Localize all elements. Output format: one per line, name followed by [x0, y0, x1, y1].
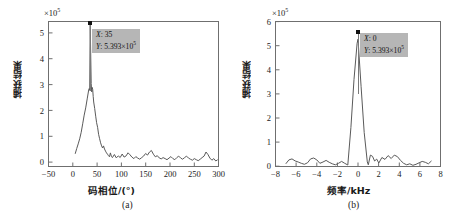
y-axis-label-a: 捕获结果: [10, 60, 23, 98]
svg-text:−6: −6: [292, 169, 301, 179]
x-axis-label-a: 码相位/(°): [88, 183, 135, 197]
y-tick-labels-a: 0 1 2 3 4 5: [40, 28, 45, 167]
svg-text:50: 50: [93, 169, 102, 179]
svg-text:0: 0: [356, 169, 360, 179]
datatip-a[interactable]: XX: 35: 35 Y: 5.393×105: [92, 29, 140, 53]
svg-text:300: 300: [212, 169, 225, 179]
panel-caption-b: (b): [348, 200, 359, 210]
panel-b: −8 −6 −4 −2 0 2 4 6 8 0 1 2 3 4 5 6: [234, 0, 469, 221]
svg-text:1: 1: [267, 137, 271, 147]
datatip-b-x: X: 0: [364, 34, 404, 44]
datatip-leader-a: [90, 25, 91, 91]
svg-text:4: 4: [267, 65, 272, 75]
svg-text:1: 1: [40, 131, 44, 141]
datatip-b-y: Y: 5.393×105: [364, 44, 404, 55]
svg-text:2: 2: [376, 169, 380, 179]
svg-text:6: 6: [267, 17, 271, 27]
datatip-b[interactable]: X: 0 Y: 5.393×105: [360, 33, 408, 57]
svg-text:200: 200: [164, 169, 177, 179]
datatip-a-y: Y: 5.393×105: [96, 40, 136, 51]
y-ticks-a: [49, 33, 53, 162]
svg-text:6: 6: [418, 169, 422, 179]
svg-text:0: 0: [71, 169, 75, 179]
svg-text:4: 4: [397, 169, 402, 179]
svg-text:−50: −50: [42, 169, 55, 179]
x-tick-labels-a: −50 0 50 100 150 200 250 300: [42, 169, 225, 179]
x-axis-label-b: 频率/kHz: [327, 183, 370, 197]
svg-text:5: 5: [40, 28, 44, 38]
svg-text:−2: −2: [333, 169, 342, 179]
svg-text:0: 0: [40, 157, 44, 167]
datatip-leader-b: [358, 34, 359, 94]
svg-text:250: 250: [188, 169, 201, 179]
y-exponent-b: ×105: [272, 7, 288, 18]
svg-text:−8: −8: [271, 169, 280, 179]
svg-text:5: 5: [267, 41, 271, 51]
x-tick-labels-b: −8 −6 −4 −2 0 2 4 6 8: [271, 169, 443, 179]
x-ticks-a: [49, 163, 219, 167]
panel-caption-a: (a): [122, 200, 133, 210]
y-exponent-a: ×105: [44, 7, 60, 18]
svg-text:2: 2: [40, 106, 44, 116]
svg-text:3: 3: [40, 80, 44, 90]
svg-text:100: 100: [115, 169, 128, 179]
svg-text:0: 0: [267, 161, 271, 171]
svg-text:2: 2: [267, 113, 271, 123]
datatip-a-x: XX: 35: 35: [96, 30, 136, 40]
figure-container: −50 0 50 100 150 200 250 300 0 1 2 3 4 5: [0, 0, 469, 221]
svg-text:4: 4: [40, 54, 45, 64]
svg-text:150: 150: [139, 169, 152, 179]
y-tick-labels-b: 0 1 2 3 4 5 6: [267, 17, 272, 172]
svg-text:3: 3: [267, 89, 271, 99]
svg-text:−4: −4: [312, 169, 322, 179]
panel-a: −50 0 50 100 150 200 250 300 0 1 2 3 4 5: [0, 0, 234, 221]
y-axis-label-b: 捕获结果: [239, 60, 252, 98]
svg-text:8: 8: [438, 169, 442, 179]
y-ticks-b: [276, 22, 280, 167]
